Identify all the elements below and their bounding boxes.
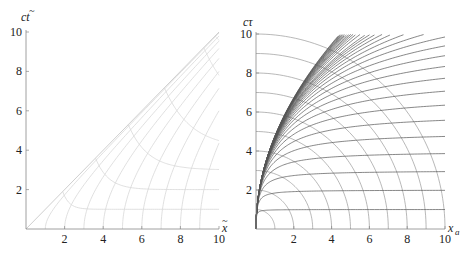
hyperbola-curve (65, 36, 219, 229)
flattening-curve (164, 88, 219, 141)
right-x-tick-label: 8 (404, 232, 410, 246)
left-y-tick-label: 10 (10, 25, 22, 39)
left-y-tick-label: 8 (16, 64, 22, 78)
hyperbola-curve (180, 111, 219, 229)
circular-arc (256, 210, 275, 230)
right-y-axis-label: cτ (243, 15, 253, 29)
right-x-tick-label: 4 (329, 232, 335, 246)
right-y-tick-label: 4 (246, 144, 252, 158)
hyperbola-curve (142, 71, 219, 229)
hyperbola-curve (161, 88, 219, 229)
right-y-tick-label: 10 (240, 27, 252, 41)
flattening-curve (95, 158, 219, 190)
level-curve (256, 91, 445, 229)
hyperbola-curve (84, 41, 219, 229)
right-plot-axes: 246810246810 (240, 27, 451, 246)
right-y-tick-label: 2 (246, 183, 252, 197)
right-y-tick-label: 8 (246, 66, 252, 80)
hyperbola-curve (123, 58, 220, 229)
right-x-tick-label: 6 (366, 232, 372, 246)
level-curve (256, 35, 355, 229)
left-y-tick-label: 6 (16, 104, 22, 118)
left-x-tick-label: 6 (139, 232, 145, 246)
left-y-tick-label: 4 (16, 143, 22, 157)
left-x-tick-label: 2 (62, 232, 68, 246)
left-y-axis-label-tilde: ~ (29, 5, 35, 16)
level-curve (256, 34, 351, 229)
chart-figure: 246810246810 ct ~ x ~ 246810246810 cτ x … (0, 0, 472, 254)
right-x-tick-label: 2 (291, 232, 297, 246)
circular-arc (256, 73, 407, 229)
level-curve (256, 35, 346, 229)
right-plot: 246810246810 cτ x a (240, 15, 460, 246)
left-plot-curves (26, 32, 219, 229)
level-curve (256, 78, 445, 229)
light-cone-line (26, 32, 219, 229)
left-x-axis-label-tilde: ~ (222, 215, 228, 226)
circular-arc (256, 171, 313, 230)
left-plot: 246810246810 ct ~ x ~ (10, 5, 228, 246)
hyperbola-curve (45, 33, 219, 229)
level-curve (256, 136, 445, 229)
hyperbola-curve (200, 143, 219, 229)
level-curve (256, 172, 445, 229)
level-curve (256, 34, 353, 229)
right-x-axis-label: x (447, 221, 454, 235)
flattening-curve (63, 192, 219, 210)
level-curve (256, 35, 370, 229)
right-x-axis-label-subscript: a (455, 227, 460, 237)
left-x-tick-label: 8 (177, 232, 183, 246)
right-y-tick-label: 6 (246, 105, 252, 119)
level-curve (256, 35, 360, 229)
left-y-tick-label: 2 (16, 183, 22, 197)
right-plot-curves (256, 34, 445, 229)
left-x-tick-label: 4 (100, 232, 106, 246)
